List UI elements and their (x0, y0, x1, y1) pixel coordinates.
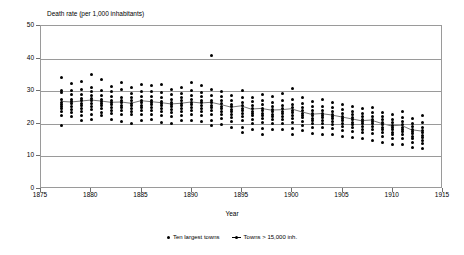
legend-item-towns-over-15000: Towns > 15,000 inh. (232, 234, 298, 240)
x-tick-mark-1900 (291, 188, 292, 192)
data-point (110, 95, 113, 98)
data-point (80, 119, 83, 122)
x-tick-mark-1910 (392, 188, 393, 192)
data-point (281, 92, 284, 95)
data-point (90, 86, 93, 89)
plot-area (40, 25, 442, 188)
y-tick-label-30: 30 (2, 87, 34, 94)
legend-label-ten-largest-towns: Ten largest towns (173, 234, 220, 240)
y-tick-label-0: 0 (2, 185, 34, 192)
death-rate-scatter-chart: Death rate (per 1,000 inhabitants) 01020… (0, 0, 464, 255)
connected-line-marker-icon (232, 236, 241, 239)
data-point (341, 108, 344, 111)
y-tick-label-20: 20 (2, 120, 34, 127)
data-point (130, 92, 133, 95)
data-point (241, 119, 244, 122)
data-point (120, 113, 123, 116)
x-tick-label-1900: 1900 (271, 192, 311, 199)
data-point (80, 80, 83, 83)
y-tick-label-50: 50 (2, 22, 34, 29)
data-point (361, 107, 364, 110)
data-point (321, 105, 324, 108)
data-point (160, 110, 163, 113)
x-tick-label-1905: 1905 (322, 192, 362, 199)
data-point (190, 119, 193, 122)
data-point (140, 90, 143, 93)
gridline-y-10 (41, 156, 441, 157)
data-point (261, 127, 264, 130)
y-tick-mark-50 (36, 25, 40, 26)
y-tick-mark-10 (36, 155, 40, 156)
data-point (301, 124, 304, 127)
data-point (150, 95, 153, 98)
x-tick-mark-1915 (442, 188, 443, 192)
data-point (100, 107, 103, 110)
data-point (271, 95, 274, 98)
data-point (180, 92, 183, 95)
x-tick-mark-1890 (191, 188, 192, 192)
y-tick-mark-40 (36, 58, 40, 59)
data-point (90, 105, 93, 108)
data-point (331, 106, 334, 109)
data-point (341, 135, 344, 138)
filled-circle-marker-icon (167, 236, 170, 239)
data-point (60, 91, 63, 94)
data-point (90, 73, 93, 76)
data-point (291, 103, 294, 106)
x-tick-mark-1885 (141, 188, 142, 192)
data-point (331, 127, 334, 130)
x-tick-mark-1895 (241, 188, 242, 192)
data-point (150, 113, 153, 116)
data-point (150, 118, 153, 121)
x-tick-mark-1875 (40, 188, 41, 192)
data-point (80, 110, 83, 113)
data-point (90, 113, 93, 116)
data-point (381, 111, 384, 114)
data-point (261, 93, 264, 96)
gridline-y-40 (41, 59, 441, 60)
data-point (241, 96, 244, 99)
x-tick-mark-1905 (342, 188, 343, 192)
data-point (331, 123, 334, 126)
data-point (100, 111, 103, 114)
data-point (261, 133, 264, 136)
data-point (291, 121, 294, 124)
y-tick-mark-20 (36, 123, 40, 124)
data-point (331, 101, 334, 104)
data-point (281, 118, 284, 121)
data-point (150, 109, 153, 112)
data-point (311, 100, 314, 103)
y-axis-title: Death rate (per 1,000 inhabitants) (47, 11, 144, 18)
data-point (60, 110, 63, 113)
y-tick-label-40: 40 (2, 55, 34, 62)
data-point (381, 141, 384, 144)
x-tick-label-1915: 1915 (422, 192, 462, 199)
data-point (281, 128, 284, 131)
data-point (321, 133, 324, 136)
x-tick-label-1910: 1910 (372, 192, 412, 199)
y-tick-mark-30 (36, 90, 40, 91)
data-point (241, 115, 244, 118)
data-point (241, 89, 244, 92)
data-point (241, 126, 244, 129)
data-point (120, 81, 123, 84)
data-point (261, 99, 264, 102)
data-point (251, 100, 254, 103)
data-point (301, 120, 304, 123)
data-point (180, 86, 183, 89)
x-tick-label-1885: 1885 (121, 192, 161, 199)
data-point (130, 110, 133, 113)
legend-label-towns-over-15000: Towns > 15,000 inh. (244, 234, 298, 240)
data-point (60, 76, 63, 79)
x-tick-mark-1880 (90, 188, 91, 192)
data-point (271, 101, 274, 104)
data-point (371, 139, 374, 142)
data-point (70, 93, 73, 96)
data-point (271, 128, 274, 131)
data-point (251, 96, 254, 99)
data-point (251, 122, 254, 125)
x-tick-label-1875: 1875 (20, 192, 60, 199)
data-point (120, 109, 123, 112)
data-point (100, 94, 103, 97)
data-point (391, 143, 394, 146)
